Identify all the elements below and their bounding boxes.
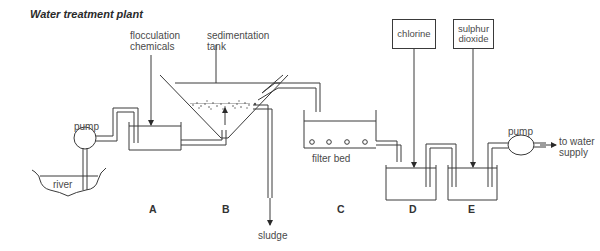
stage-c: C: [337, 203, 345, 215]
stage-e: E: [468, 203, 475, 215]
sludge-particles: [190, 100, 256, 109]
chlorine-label: chlorine: [397, 29, 430, 39]
chlorine-box: chlorine: [392, 19, 436, 49]
stage-b: B: [222, 203, 230, 215]
pump-right-label: pump: [508, 126, 533, 137]
sulphur-dioxide-box: sulphur dioxide: [453, 19, 494, 49]
sedimentation-tank-b: [160, 75, 288, 138]
water-treatment-diagram: Water treatment plant: [0, 0, 600, 251]
pump-right-icon: [508, 135, 534, 155]
pump-left-label: pump: [74, 121, 99, 132]
flocculation-label: flocculation: [130, 30, 180, 41]
filter-bed-label: filter bed: [312, 153, 350, 164]
river-label: river: [53, 179, 72, 190]
sedimentation-label: sedimentation: [207, 30, 269, 41]
stage-a: A: [149, 203, 157, 215]
dioxide-label: dioxide: [458, 34, 488, 44]
tank-label: tank: [207, 41, 226, 52]
supply-label: supply: [559, 147, 588, 158]
to-water-label: to water: [559, 136, 595, 147]
tank-d: [386, 165, 436, 200]
sludge-label: sludge: [258, 230, 287, 241]
tank-e: [448, 165, 497, 200]
stage-d: D: [409, 203, 417, 215]
filter-bed-c: [304, 110, 376, 148]
chemicals-label: chemicals: [130, 41, 174, 52]
tank-a: [129, 122, 181, 150]
